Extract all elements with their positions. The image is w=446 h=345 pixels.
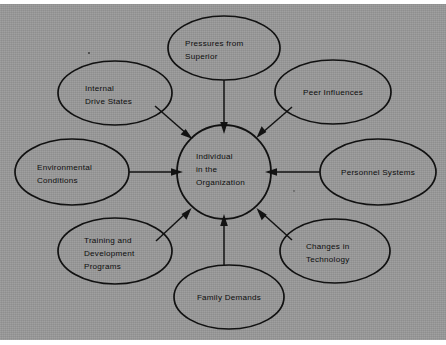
node-label-line: Family Demands <box>197 293 261 302</box>
influence-diagram: Pressures from Superior Internal Drive S… <box>0 0 446 345</box>
node-internal-drive-states[interactable]: Internal Drive States <box>58 61 172 125</box>
node-label-line: Development <box>84 249 135 258</box>
node-peer-influences[interactable]: Peer Influences <box>275 60 391 124</box>
node-changes-in-technology[interactable]: Changes in Technology <box>280 219 390 283</box>
center-label-line: Individual <box>196 152 233 161</box>
node-label-line: Personnel Systems <box>341 168 415 177</box>
node-label-line: Peer Influences <box>303 88 363 97</box>
node-personnel-systems[interactable]: Personnel Systems <box>320 139 436 205</box>
center-label-line: Organization <box>196 178 245 187</box>
edge-family-demands <box>220 214 228 265</box>
node-pressures-from-superior[interactable]: Pressures from Superior <box>168 16 280 80</box>
node-label-line: Programs <box>84 262 121 271</box>
node-label-line: Drive States <box>85 97 132 106</box>
node-family-demands[interactable]: Family Demands <box>174 265 284 329</box>
node-label-line: Environmental <box>37 163 92 172</box>
center-label-line: in the <box>196 165 218 174</box>
node-label-line: Changes in <box>306 242 349 251</box>
node-label-line: Superior <box>185 52 218 61</box>
node-training-and-development-programs[interactable]: Training and Development Programs <box>58 218 172 284</box>
figure-root: Pressures from Superior Internal Drive S… <box>0 0 446 345</box>
node-label-line: Training and <box>84 236 132 245</box>
node-label-line: Pressures from <box>185 39 243 48</box>
edge-personnel-systems <box>265 168 320 176</box>
node-environmental-conditions[interactable]: Environmental Conditions <box>15 139 129 205</box>
node-label-line: Technology <box>306 255 350 264</box>
node-label-line: Conditions <box>37 176 78 185</box>
edge-training-and-development-programs <box>156 208 192 241</box>
node-individual-in-the-organization[interactable]: Individual in the Organization <box>177 125 271 219</box>
node-label-line: Internal <box>85 84 114 93</box>
edge-internal-drive-states <box>155 106 193 139</box>
edge-environmental-conditions <box>129 168 183 176</box>
